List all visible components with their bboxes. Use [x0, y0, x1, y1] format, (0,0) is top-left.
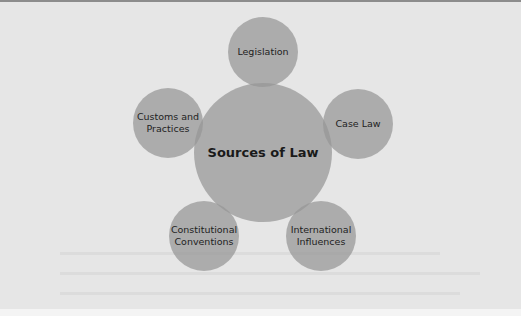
center-node-label: Sources of Law: [205, 145, 322, 160]
node-label: Customs and Practices: [133, 111, 203, 135]
node-label: Constitutional Conventions: [168, 224, 240, 248]
node-case-law: Case Law: [323, 89, 393, 159]
diagram-panel: Sources of Law Legislation Case Law Inte…: [0, 0, 521, 309]
node-customs-and-practices: Customs and Practices: [133, 88, 203, 158]
node-constitutional-conventions: Constitutional Conventions: [169, 201, 239, 271]
node-label: Legislation: [234, 46, 291, 58]
node-international-influences: International Influences: [286, 201, 356, 271]
node-label: Case Law: [332, 118, 383, 130]
sources-of-law-diagram: Sources of Law Legislation Case Law Inte…: [0, 2, 521, 309]
node-label: International Influences: [286, 224, 356, 248]
node-legislation: Legislation: [228, 17, 298, 87]
